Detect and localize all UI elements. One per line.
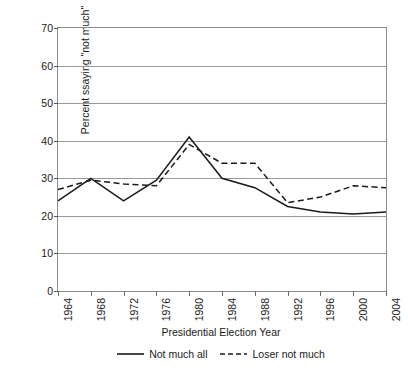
x-axis-tick-mark (222, 291, 223, 296)
y-axis-tick-label: 20 (41, 211, 53, 222)
x-axis-tick-mark (288, 291, 289, 296)
x-axis-tick-mark (58, 291, 59, 296)
chart-legend: Not much allLoser not much (57, 348, 385, 360)
x-axis-tick-mark (386, 291, 387, 296)
y-axis-tick-label: 10 (41, 248, 53, 259)
y-axis-tick-label: 40 (41, 135, 53, 146)
x-axis-tick-label: 1988 (260, 298, 271, 321)
x-axis-tick-mark (255, 291, 256, 296)
x-axis-tick-label: 1992 (293, 298, 304, 321)
x-axis-tick-mark (353, 291, 354, 296)
series-line-not-much-all (58, 137, 386, 214)
x-axis-tick-label: 1980 (194, 298, 205, 321)
legend-swatch-solid-line-icon (117, 349, 144, 359)
x-axis-tick-mark (124, 291, 125, 296)
x-axis-tick-mark (91, 291, 92, 296)
y-axis-tick-label: 70 (41, 23, 53, 34)
x-axis-tick-mark (156, 291, 157, 296)
x-axis-tick-label: 1964 (63, 298, 74, 321)
legend-label: Not much all (149, 348, 207, 360)
x-axis-tick-label: 1996 (325, 298, 336, 321)
y-axis-tick-label: 50 (41, 98, 53, 109)
plot-area: 010203040506070 196419681972197619801984… (57, 27, 387, 292)
x-axis-tick-mark (189, 291, 190, 296)
legend-entry: Not much all (117, 348, 207, 360)
x-axis-tick-label: 1968 (96, 298, 107, 321)
x-axis-tick-label: 2000 (358, 298, 369, 321)
y-axis-title: Percent ssaying "not much" (0, 0, 18, 78)
x-axis-tick-label: 1976 (161, 298, 172, 321)
data-series-group (58, 28, 386, 291)
line-chart-figure: Percent ssaying "not much" 0102030405060… (0, 0, 408, 372)
x-axis-tick-label: 1984 (227, 298, 238, 321)
x-axis-tick-label: 1972 (129, 298, 140, 321)
legend-entry: Loser not much (220, 348, 324, 360)
x-axis-title: Presidential Election Year (57, 326, 385, 338)
series-line-loser-not-much (58, 144, 386, 202)
y-axis-tick-label: 0 (47, 286, 53, 297)
legend-swatch-dashed-line-icon (220, 349, 247, 359)
y-axis-tick-label: 30 (41, 173, 53, 184)
x-axis-tick-mark (320, 291, 321, 296)
y-axis-tick-label: 60 (41, 60, 53, 71)
legend-label: Loser not much (252, 348, 324, 360)
x-axis-tick-label: 2004 (391, 298, 402, 321)
